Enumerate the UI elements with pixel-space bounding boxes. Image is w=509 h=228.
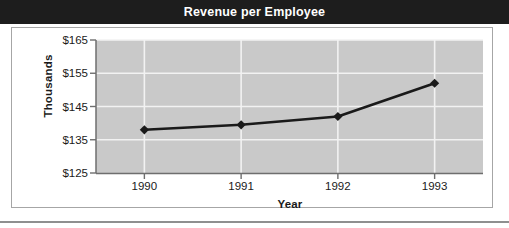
x-axis-tick-label: 1990 <box>114 180 174 192</box>
x-axis-title: Year <box>96 198 484 210</box>
x-axis-tick-label: 1992 <box>308 180 368 192</box>
x-axis-tick-labels: 1990199119921993 <box>0 0 509 228</box>
bottom-divider <box>0 221 509 223</box>
x-axis-tick-label: 1991 <box>211 180 271 192</box>
chart-figure: Revenue per Employee $165$155$145$135$12… <box>0 0 509 228</box>
y-axis-title: Thousands <box>42 46 58 126</box>
x-axis-tick-label: 1993 <box>405 180 465 192</box>
